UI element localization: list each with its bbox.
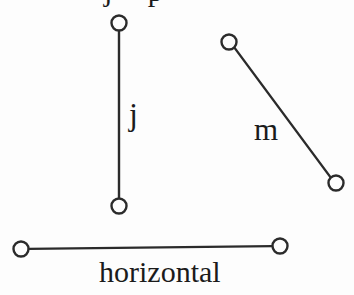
segment-m-line[interactable] <box>235 48 331 177</box>
segment-j-label: j <box>129 98 138 130</box>
segment-m-label: m <box>254 114 278 145</box>
segment-j[interactable] <box>112 16 127 214</box>
segment-horizontal-label: horizontal <box>99 257 221 287</box>
segment-m-endpoint-upper-left[interactable] <box>222 35 237 50</box>
geometry-diagram: j p j m horizontal <box>0 0 354 295</box>
segment-horizontal-endpoint-right[interactable] <box>273 239 288 254</box>
segment-j-endpoint-top[interactable] <box>112 16 127 31</box>
diagram-canvas <box>0 0 354 295</box>
segment-j-endpoint-bottom[interactable] <box>112 199 127 214</box>
segment-m-endpoint-lower-right[interactable] <box>329 176 344 191</box>
segment-horizontal[interactable] <box>14 239 288 257</box>
segment-horizontal-line[interactable] <box>29 246 273 249</box>
segment-horizontal-endpoint-left[interactable] <box>14 242 29 257</box>
segment-m[interactable] <box>222 35 344 191</box>
